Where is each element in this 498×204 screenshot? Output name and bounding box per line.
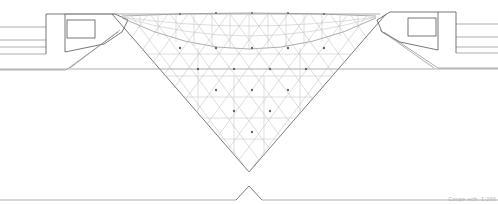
cable-truss <box>122 12 376 49</box>
scale-label: Coupe ech. 1:200 <box>449 196 496 202</box>
ground-line <box>0 186 498 200</box>
right-slab <box>438 24 498 68</box>
section-drawing <box>0 0 498 204</box>
left-slab <box>0 27 66 70</box>
right-wall <box>377 12 456 68</box>
truss-nodes <box>179 12 325 133</box>
